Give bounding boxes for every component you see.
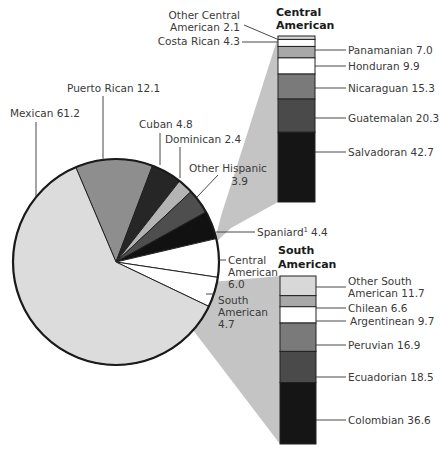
leader-other-ca — [244, 25, 277, 39]
central-american-bar — [278, 36, 315, 202]
label-guatemalan: Guatemalan 20.3 — [348, 112, 439, 124]
bar-segment-guatemalan — [278, 99, 315, 132]
label-other-hispanic-value: 3.9 — [231, 175, 248, 187]
label-other-ca-1: Other Central — [169, 9, 240, 21]
label-cuban: Cuban 4.8 — [139, 118, 193, 130]
label-central-2: American — [228, 266, 278, 278]
label-dominican: Dominican 2.4 — [165, 133, 241, 145]
bar-segment-panamanian — [278, 46, 315, 57]
spaniard-footnote: 1 — [304, 226, 308, 234]
bar-segment-peruvian — [280, 323, 316, 351]
label-argentinean: Argentinean 9.7 — [350, 315, 434, 327]
label-chilean: Chilean 6.6 — [348, 302, 408, 314]
bar-segment-ecuadorian — [280, 351, 316, 382]
label-south-3: 4.7 — [218, 318, 235, 330]
south-american-bar — [280, 276, 316, 444]
label-central-3: 6.0 — [228, 278, 245, 290]
label-honduran: Honduran 9.9 — [348, 60, 420, 72]
label-other-hispanic: Other Hispanic — [189, 162, 267, 174]
bar-segment-nicaraguan — [278, 74, 315, 99]
bar-segment-salvadoran — [278, 132, 315, 202]
label-spaniard: Spaniard14.4 — [257, 226, 328, 238]
bar-segment-other-central-american — [278, 36, 315, 39]
central-american-labels: Panamanian 7.0 Honduran 9.9 Nicaraguan 1… — [315, 44, 439, 158]
sa-header-2: American — [278, 258, 336, 271]
label-south-2: American — [218, 306, 268, 318]
label-colombian: Colombian 36.6 — [348, 414, 431, 426]
leader-other-hispanic — [197, 175, 218, 197]
label-ecuadorian: Ecuadorian 18.5 — [348, 371, 434, 383]
label-south-1: South — [218, 294, 249, 306]
label-other-sa-2: American 11.7 — [348, 287, 425, 299]
spaniard-text: Spaniard — [257, 226, 304, 238]
label-peruvian: Peruvian 16.9 — [348, 339, 420, 351]
label-costa-rican: Costa Rican 4.3 — [158, 35, 240, 47]
label-other-ca-2: American 2.1 — [170, 21, 240, 33]
hispanic-origin-chart: Mexican 61.2 Puerto Rican 12.1 Cuban 4.8… — [0, 0, 440, 451]
spaniard-value: 4.4 — [311, 226, 328, 238]
bar-segment-other-south-american — [280, 276, 316, 296]
ca-header-2: American — [276, 19, 334, 32]
label-central-1: Central — [228, 254, 266, 266]
bar-segment-argentinean — [280, 307, 316, 323]
bar-segment-colombian — [280, 383, 316, 444]
bar-segment-honduran — [278, 58, 315, 74]
label-panamanian: Panamanian 7.0 — [348, 44, 433, 56]
label-nicaraguan: Nicaraguan 15.3 — [348, 82, 435, 94]
bar-segment-costa-rican — [278, 39, 315, 46]
sa-header-1: South — [278, 244, 314, 257]
ca-header-1: Central — [276, 6, 321, 19]
bar-segment-chilean — [280, 296, 316, 307]
label-puerto-rican: Puerto Rican 12.1 — [67, 82, 160, 94]
label-mexican: Mexican 61.2 — [10, 107, 80, 119]
label-salvadoran: Salvadoran 42.7 — [348, 146, 434, 158]
label-other-sa-1: Other South — [348, 275, 412, 287]
